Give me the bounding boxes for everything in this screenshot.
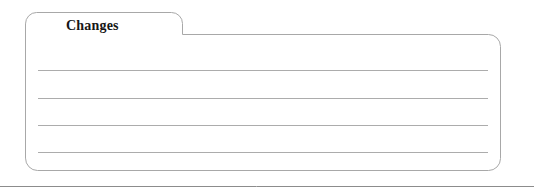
tab-changes-label: Changes [66,17,119,34]
note-line[interactable] [38,165,488,185]
tabbed-note-panel: Changes [0,0,534,194]
note-line[interactable] [38,84,488,104]
note-writing-area[interactable] [38,34,488,170]
note-line[interactable] [38,111,488,131]
note-line[interactable] [38,138,488,158]
